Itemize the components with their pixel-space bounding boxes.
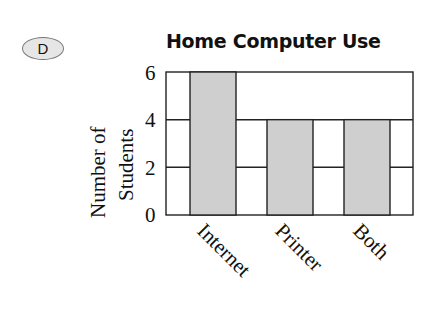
y-tick-6: 6 [145, 61, 156, 85]
bar-internet [190, 72, 236, 215]
x-axis-labels: InternetPrinterBoth [192, 219, 394, 282]
y-tick-4: 4 [145, 108, 156, 132]
x-label-both: Both [348, 219, 394, 265]
y-tick-0: 0 [145, 203, 156, 227]
bars-group [190, 72, 390, 215]
bar-both [344, 120, 390, 215]
x-label-internet: Internet [192, 219, 255, 282]
y-axis-label-line2: Students [114, 129, 138, 201]
x-label-printer: Printer [270, 219, 327, 276]
bar-chart: Number of Students 6 4 2 0 InternetPrint… [0, 0, 435, 321]
y-axis-label-line1: Number of [86, 126, 110, 218]
y-tick-2: 2 [145, 156, 156, 180]
bar-printer [267, 120, 313, 215]
